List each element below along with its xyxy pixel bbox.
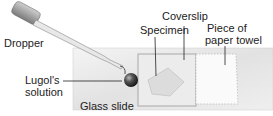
- label-paper-towel-line2: paper towel: [205, 34, 262, 46]
- label-dropper: Dropper: [4, 37, 44, 49]
- label-glass-slide: Glass slide: [80, 100, 134, 112]
- label-paper-towel-line1: Piece of: [207, 22, 247, 34]
- label-lugols-line1: Lugol's: [25, 74, 60, 86]
- label-specimen: Specimen: [140, 24, 189, 36]
- diagram-illustration: [0, 0, 273, 116]
- paper-towel: [196, 54, 238, 104]
- label-coverslip: Coverslip: [162, 10, 208, 22]
- lugols-drop: [124, 73, 138, 87]
- label-lugols-line2: solution: [25, 86, 63, 98]
